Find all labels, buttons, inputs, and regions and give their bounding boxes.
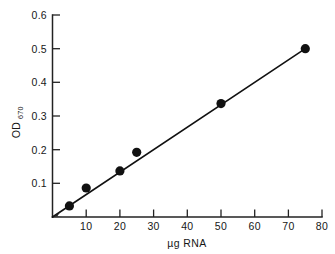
scatter-plot: 0.6 0.5 0.4 0.3 0.2 0.1 OD 670 [0,0,335,254]
y-tick-label-0.2: 0.2 [32,144,48,156]
data-point [65,201,74,210]
chart-figure: 0.6 0.5 0.4 0.3 0.2 0.1 OD 670 [0,0,335,254]
data-point [301,44,310,53]
data-point [82,183,91,192]
x-tick-label-80: 80 [316,220,328,232]
y-axis-title-base: OD [10,122,22,139]
fit-line-group [53,49,306,217]
y-axis: 0.6 0.5 0.4 0.3 0.2 0.1 OD 670 [10,9,60,217]
x-axis-title: µg RNA [167,237,206,249]
y-tick-label-0.4: 0.4 [32,76,48,88]
y-tick-label-0.3: 0.3 [32,110,48,122]
y-axis-title: OD 670 [10,106,25,138]
x-tick-label-40: 40 [181,220,193,232]
x-tick-label-60: 60 [249,220,261,232]
x-tick-label-50: 50 [215,220,227,232]
x-tick-label-20: 20 [114,220,126,232]
x-tick-label-30: 30 [147,220,159,232]
y-tick-label-0.6: 0.6 [32,9,48,21]
data-point [132,148,141,157]
y-tick-label-0.5: 0.5 [32,43,48,55]
y-tick-label-0.1: 0.1 [32,177,48,189]
data-point [115,166,124,175]
x-tick-label-10: 10 [80,220,92,232]
x-axis: 10 20 30 40 50 60 70 80 µg RNA [53,210,329,250]
linear-fit-line [53,49,306,217]
y-axis-title-subscript: 670 [16,106,25,119]
x-tick-label-70: 70 [282,220,294,232]
data-point [216,99,225,108]
